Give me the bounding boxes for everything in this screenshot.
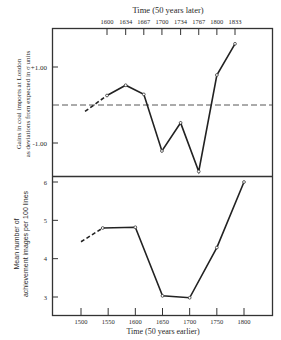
top-y-tick-label: -1.00: [32, 140, 47, 148]
top-x-tick-label: 1734: [174, 18, 188, 25]
top-x-tick-label: 1800: [210, 18, 223, 25]
top-data-point: [179, 121, 182, 124]
bottom-x-tick-label: 1650: [156, 318, 169, 325]
top-x-tick-label: 1833: [229, 18, 242, 25]
bottom-x-tick-label: 1500: [75, 318, 88, 325]
bottom-x-tick-label: 1750: [210, 318, 223, 325]
top-data-point: [124, 84, 127, 87]
top-series-line: [107, 44, 235, 172]
top-data-point: [142, 93, 145, 96]
bottom-series-line: [103, 182, 244, 298]
top-panel-plot: 16001634166717001734176718001833+1.00-1.…: [31, 18, 272, 173]
top-axis-title: Time (50 years later): [132, 5, 203, 15]
bottom-x-tick-label: 1800: [238, 318, 251, 325]
top-data-point: [234, 42, 237, 45]
top-y-tick-label: +1.00: [31, 64, 48, 72]
bottom-data-point: [188, 296, 191, 299]
bottom-panel-plot: 15001550160016501700175018006543: [44, 179, 251, 326]
bottom-data-point: [161, 294, 164, 297]
top-y-axis-label: Gains in coal imports at London as devia…: [15, 51, 32, 158]
top-x-tick-label: 1600: [101, 18, 114, 25]
bottom-y-tick-label: 5: [44, 217, 47, 224]
top-x-tick-label: 1634: [119, 18, 133, 25]
bottom-y-tick-label: 6: [44, 179, 48, 186]
bottom-series-dashed: [81, 228, 103, 242]
bottom-data-point: [215, 246, 218, 249]
top-x-tick-label: 1767: [192, 18, 206, 25]
bottom-y-tick-label: 4: [44, 255, 48, 262]
bottom-x-tick-label: 1700: [183, 318, 196, 325]
top-x-tick-label: 1667: [137, 18, 151, 25]
top-x-tick-label: 1700: [155, 18, 168, 25]
bottom-y-tick-label: 3: [44, 294, 47, 301]
top-data-point: [197, 170, 200, 173]
bottom-axis-title: Time (50 years earlier): [126, 327, 200, 336]
top-data-point: [106, 94, 109, 97]
bottom-ylabel-line1: Mean number of: [13, 218, 20, 269]
chart-frame: [53, 29, 273, 316]
bottom-y-axis-label: Mean number of achievement images per 10…: [13, 190, 30, 297]
top-data-point: [215, 74, 218, 77]
chart-figure: Time (50 years later) Time (50 years ear…: [0, 0, 281, 340]
bottom-x-tick-label: 1550: [102, 318, 115, 325]
top-ylabel-line1: Gains in coal imports at London: [15, 58, 23, 149]
bottom-x-tick-label: 1600: [129, 318, 142, 325]
top-data-point: [161, 150, 164, 153]
bottom-ylabel-line2: achievement images per 100 lines: [22, 190, 30, 297]
bottom-data-point: [243, 181, 246, 184]
bottom-data-point: [101, 227, 104, 230]
top-series-dashed: [85, 96, 107, 112]
bottom-data-point: [134, 226, 137, 229]
